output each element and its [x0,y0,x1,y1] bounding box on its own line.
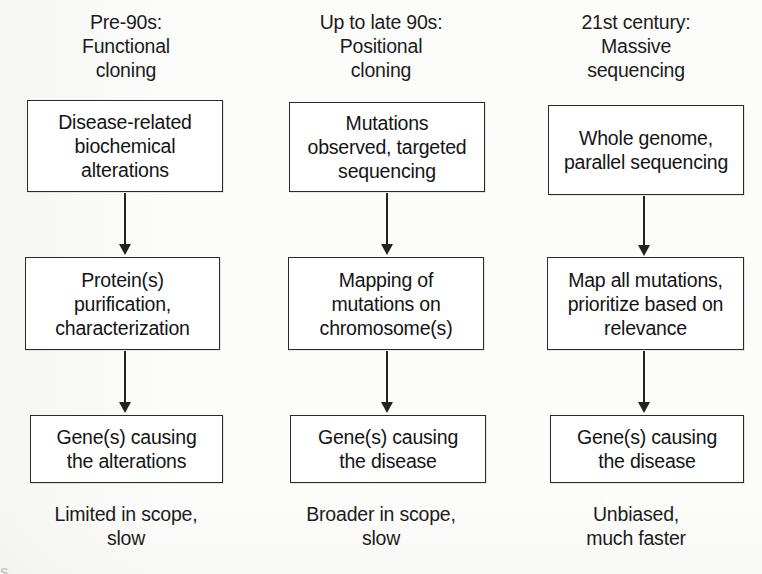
arrow-head [119,244,131,255]
arrow-21c-1-to-2 [637,196,651,256]
node-21c-step-3: Gene(s) causing the disease [550,415,744,483]
node-late90s-step-2: Mapping of mutations on chromosome(s) [288,257,484,350]
footer-note-up-to-late-90s: Broader in scope, slow [252,502,510,550]
node-21c-step-2: Map all mutations, prioritize based on r… [547,257,744,350]
arrow-stem [643,196,645,247]
arrow-pre90s-2-to-3 [118,351,132,413]
column-header-up-to-late-90s: Up to late 90s: Positional cloning [252,10,510,82]
node-pre90s-step-3: Gene(s) causing the alterations [30,415,223,483]
node-21c-step-1: Whole genome, parallel sequencing [548,105,744,195]
arrow-stem [386,351,388,404]
arrow-21c-2-to-3 [637,351,651,413]
arrow-pre90s-1-to-2 [118,193,132,255]
node-pre90s-step-2: Protein(s) purification, characterizatio… [25,257,220,350]
flow-column-pre-90s: Pre-90s: Functional cloning Disease-rela… [0,0,252,574]
footer-note-pre-90s: Limited in scope, slow [0,502,252,550]
arrow-head [638,245,650,256]
arrow-head [638,402,650,413]
node-late90s-step-1: Mutations observed, targeted sequencing [289,102,485,192]
flowchart-figure: Pre-90s: Functional cloning Disease-rela… [0,0,762,574]
arrow-stem [124,351,126,404]
arrow-late90s-2-to-3 [380,351,394,413]
column-header-21st-century: 21st century: Massive sequencing [510,10,762,82]
arrow-stem [124,193,126,246]
arrow-stem [386,193,388,246]
flow-column-21st-century: 21st century: Massive sequencing Whole g… [510,0,762,574]
arrow-stem [643,351,645,404]
arrow-head [381,402,393,413]
node-pre90s-step-1: Disease-related biochemical alterations [27,100,223,192]
arrow-head [381,244,393,255]
arrow-late90s-1-to-2 [380,193,394,255]
node-late90s-step-3: Gene(s) causing the disease [290,415,486,483]
bottom-cutoff-text-fragment: s [0,562,762,574]
column-header-pre-90s: Pre-90s: Functional cloning [0,10,252,82]
flow-column-up-to-late-90s: Up to late 90s: Positional cloning Mutat… [252,0,510,574]
footer-note-21st-century: Unbiased, much faster [510,502,762,550]
arrow-head [119,402,131,413]
